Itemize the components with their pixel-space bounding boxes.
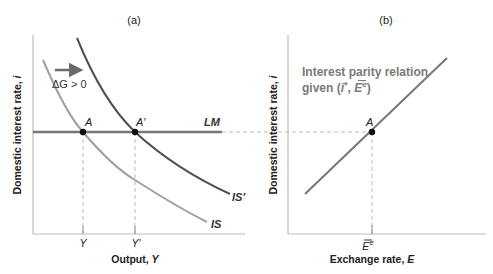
- panel-b-y-axis-title: Domestic interest rate, i: [267, 74, 279, 194]
- panel-a: (a) ΔG > 0 A A′ LM IS′ IS Y Y′ Outpu: [11, 14, 372, 265]
- panel-a-title: (a): [127, 14, 140, 26]
- point-a-panel-b: [369, 129, 375, 135]
- parity-label-line2: given (i*, Ee): [302, 80, 371, 95]
- point-a: [80, 129, 86, 135]
- diagram-canvas: (a) ΔG > 0 A A′ LM IS′ IS Y Y′ Outpu: [0, 0, 493, 274]
- point-a-label: A: [84, 116, 92, 128]
- point-a-prime-label: A′: [135, 116, 146, 128]
- tick-y-prime-label: Y′: [132, 237, 142, 249]
- tick-y-label: Y: [79, 237, 87, 249]
- is-label: IS: [211, 218, 222, 230]
- panel-a-y-axis-title: Domestic interest rate, i: [11, 74, 23, 194]
- panel-b: (b) A Interest parity relation given (i*…: [267, 14, 486, 265]
- lm-label: LM: [204, 116, 221, 128]
- delta-g-annotation: ΔG > 0: [52, 78, 87, 90]
- panel-b-x-axis-title: Exchange rate, E: [330, 253, 416, 265]
- panel-a-x-axis-title: Output, Y: [111, 253, 159, 265]
- panel-b-title: (b): [379, 14, 392, 26]
- parity-label-line1: Interest parity relation: [302, 65, 428, 79]
- point-a-panel-b-label: A: [365, 116, 373, 128]
- is-prime-label: IS′: [232, 191, 246, 203]
- point-a-prime: [132, 129, 138, 135]
